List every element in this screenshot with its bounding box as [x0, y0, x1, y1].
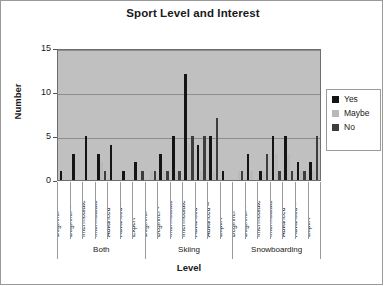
- bar[interactable]: [60, 171, 63, 180]
- x-tick-label: Expert: [221, 218, 223, 237]
- bar[interactable]: [272, 136, 275, 180]
- bar[interactable]: [263, 171, 266, 180]
- bar[interactable]: [266, 154, 269, 180]
- bar-group: [145, 50, 232, 180]
- bar[interactable]: [110, 145, 113, 180]
- x-tick-label-cell: Beginner: [58, 182, 71, 239]
- plot-area: [57, 49, 321, 181]
- x-tick-label: Intermediate: [258, 200, 260, 237]
- bar-category: [145, 50, 157, 180]
- bar[interactable]: [259, 171, 262, 180]
- bar[interactable]: [122, 171, 125, 180]
- legend-item[interactable]: Maybe: [332, 108, 380, 118]
- bar[interactable]: [178, 171, 181, 180]
- x-tick-label: Beginner -: [158, 207, 160, 237]
- bar[interactable]: [163, 171, 166, 180]
- bar[interactable]: [209, 136, 212, 180]
- x-tick-label: Advanced –: [296, 202, 298, 237]
- label-group: BeginnerBeginner -IntermediateIntermedia…: [58, 182, 146, 239]
- bar-category: [233, 50, 245, 180]
- bar[interactable]: [166, 171, 169, 180]
- bar[interactable]: [278, 171, 281, 180]
- legend-swatch-icon: [332, 96, 339, 103]
- x-tick-label: Intermediate: [183, 200, 185, 237]
- bar[interactable]: [300, 171, 303, 180]
- bar-category: [158, 50, 170, 180]
- bar-category: [270, 50, 282, 180]
- bar[interactable]: [312, 171, 315, 180]
- y-axis-title: Number: [12, 62, 23, 142]
- x-tick-label-cell: Advanced: [283, 182, 296, 239]
- bar[interactable]: [191, 136, 194, 180]
- bar[interactable]: [184, 74, 187, 180]
- x-tick-label-cell: Advanced –: [121, 182, 134, 239]
- bar[interactable]: [250, 171, 253, 180]
- bar[interactable]: [303, 171, 306, 180]
- bar[interactable]: [203, 136, 206, 180]
- bar-category: [245, 50, 257, 180]
- x-tick-label: Beginner: [233, 211, 235, 237]
- x-tick-label-cell: Beginner -: [246, 182, 259, 239]
- bar[interactable]: [154, 171, 157, 180]
- bar-category: [258, 50, 270, 180]
- bar[interactable]: [100, 162, 103, 180]
- x-tick-label-cell: Advanced –: [208, 182, 221, 239]
- bar[interactable]: [134, 162, 137, 180]
- x-tick-label: Intermediate: [83, 200, 85, 237]
- legend-swatch-icon: [332, 110, 339, 117]
- bar[interactable]: [316, 136, 319, 180]
- bar[interactable]: [197, 145, 200, 180]
- x-tick-label: Beginner -: [246, 207, 248, 237]
- y-tick-label: 0: [25, 175, 51, 185]
- bar[interactable]: [241, 171, 244, 180]
- bar[interactable]: [104, 171, 107, 180]
- x-tick-label-cell: Intermediate: [171, 182, 184, 239]
- bar-category: [307, 50, 319, 180]
- x-group-label: Snowboarding: [233, 239, 321, 259]
- x-tick-label-cell: Beginner: [233, 182, 246, 239]
- x-tick-label-cell: Advanced: [108, 182, 121, 239]
- bar[interactable]: [200, 171, 203, 180]
- legend-label: Yes: [344, 94, 358, 104]
- bar-series-container: [58, 50, 320, 180]
- x-tick-label: Advanced: [283, 208, 285, 237]
- bar[interactable]: [97, 154, 100, 180]
- bar[interactable]: [216, 118, 219, 180]
- bar[interactable]: [159, 154, 162, 180]
- bar[interactable]: [247, 154, 250, 180]
- bar[interactable]: [287, 154, 290, 180]
- bar[interactable]: [213, 171, 216, 180]
- bar-group: [58, 50, 145, 180]
- x-axis-title: Level: [57, 262, 321, 273]
- bar[interactable]: [297, 162, 300, 180]
- x-tick-label: Expert: [309, 218, 311, 237]
- bar[interactable]: [284, 136, 287, 180]
- bar-category: [170, 50, 182, 180]
- bar[interactable]: [188, 145, 191, 180]
- bar-group: [233, 50, 320, 180]
- bar[interactable]: [309, 162, 312, 180]
- bar-category: [120, 50, 132, 180]
- bar[interactable]: [175, 171, 178, 180]
- legend-item[interactable]: No: [332, 122, 380, 132]
- x-tick-label-cell: Advanced –: [296, 182, 309, 239]
- bar-category: [220, 50, 232, 180]
- x-tick-label-cell: Beginner: [146, 182, 159, 239]
- legend-swatch-icon: [332, 124, 339, 131]
- bar[interactable]: [150, 171, 153, 180]
- legend-item[interactable]: Yes: [332, 94, 380, 104]
- bar[interactable]: [85, 136, 88, 180]
- bar[interactable]: [222, 171, 225, 180]
- bar[interactable]: [238, 171, 241, 180]
- bar[interactable]: [141, 171, 144, 180]
- bar[interactable]: [172, 136, 175, 180]
- bar-category: [295, 50, 307, 180]
- bar-category: [108, 50, 120, 180]
- bar[interactable]: [275, 154, 278, 180]
- x-axis-category-labels: BeginnerBeginner -IntermediateIntermedia…: [57, 182, 321, 239]
- bar[interactable]: [72, 154, 75, 180]
- x-tick-label: Beginner -: [71, 207, 73, 237]
- x-tick-label: Intermediate: [271, 200, 273, 237]
- chart-title: Sport Level and Interest: [1, 7, 384, 19]
- bar[interactable]: [291, 171, 294, 180]
